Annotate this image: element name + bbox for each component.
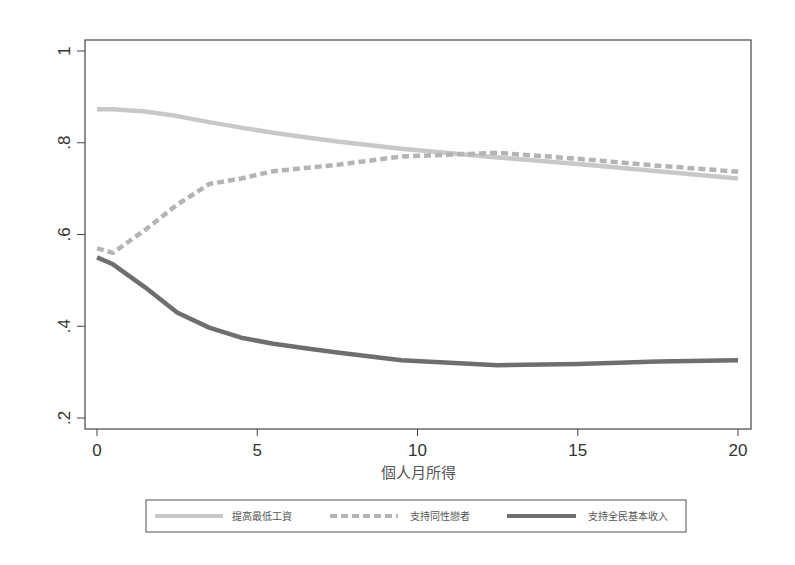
x-tick-label: 20: [729, 441, 748, 460]
x-tick-label: 5: [253, 441, 262, 460]
legend-label-support-gay: 支持同性戀者: [410, 510, 470, 522]
legend-label-min-wage: 提高最低工資: [232, 510, 292, 522]
y-tick-label: .4: [55, 319, 74, 333]
y-tick-label: .8: [55, 136, 74, 150]
x-axis-title: 個人月所得: [381, 464, 456, 482]
y-tick-label: 1: [55, 46, 74, 55]
line-chart: .2.4.6.81 05101520 個人月所得 提高最低工資 支持同性戀者 支…: [0, 0, 795, 565]
x-tick-label: 15: [568, 441, 587, 460]
legend: 提高最低工資 支持同性戀者 支持全民基本收入: [146, 500, 686, 532]
y-tick-label: .2: [55, 411, 74, 425]
x-tick-label: 10: [408, 441, 427, 460]
legend-label-basic-income: 支持全民基本收入: [588, 510, 668, 522]
x-tick-label: 0: [92, 441, 101, 460]
y-tick-label: .6: [55, 227, 74, 241]
